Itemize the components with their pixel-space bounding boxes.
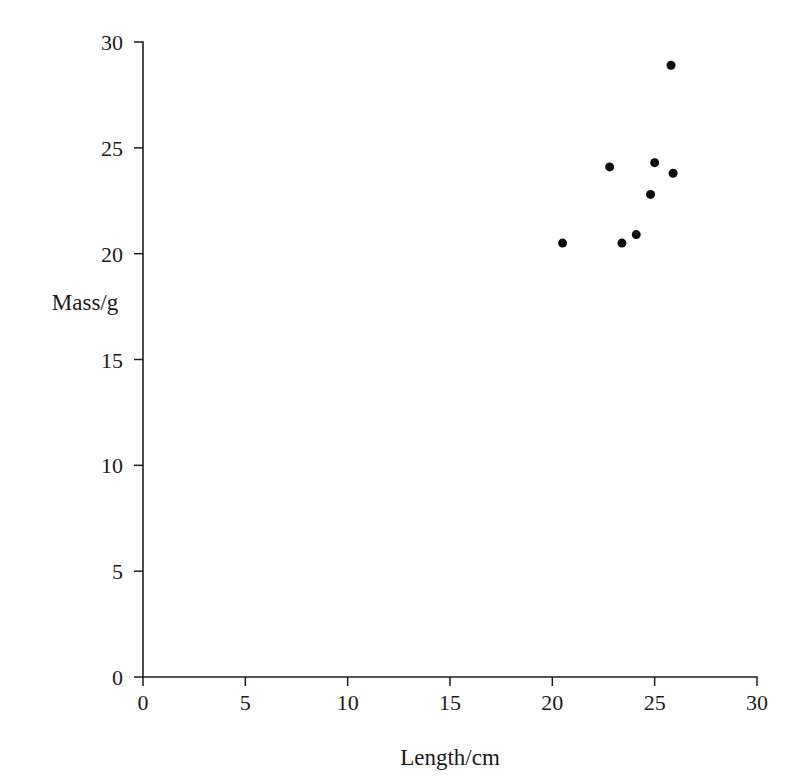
x-tick-label: 5 xyxy=(240,690,251,715)
x-tick-label: 15 xyxy=(439,690,461,715)
y-tick-label: 20 xyxy=(101,242,123,267)
y-tick-label: 25 xyxy=(101,136,123,161)
data-point xyxy=(669,169,678,178)
data-point xyxy=(646,190,655,199)
data-points xyxy=(558,61,678,248)
x-tick-label: 10 xyxy=(337,690,359,715)
x-tick-label: 20 xyxy=(541,690,563,715)
scatter-chart: 051015202530 051015202530 Length/cm Mass… xyxy=(0,0,805,777)
data-point xyxy=(617,239,626,248)
y-tick-label: 15 xyxy=(101,348,123,373)
data-point xyxy=(605,162,614,171)
axes xyxy=(143,42,757,677)
y-axis-ticks: 051015202530 xyxy=(101,30,143,690)
x-tick-label: 0 xyxy=(138,690,149,715)
x-axis-title: Length/cm xyxy=(400,745,500,770)
y-tick-label: 30 xyxy=(101,30,123,55)
y-tick-label: 10 xyxy=(101,453,123,478)
data-point xyxy=(650,158,659,167)
y-axis-title: Mass/g xyxy=(52,290,119,315)
x-tick-label: 30 xyxy=(746,690,768,715)
data-point xyxy=(667,61,676,70)
plot-area: 051015202530 051015202530 Length/cm Mass… xyxy=(0,0,805,777)
y-tick-label: 0 xyxy=(112,665,123,690)
data-point xyxy=(558,239,567,248)
y-tick-label: 5 xyxy=(112,559,123,584)
data-point xyxy=(632,230,641,239)
x-tick-label: 25 xyxy=(644,690,666,715)
x-axis-ticks: 051015202530 xyxy=(138,677,769,715)
